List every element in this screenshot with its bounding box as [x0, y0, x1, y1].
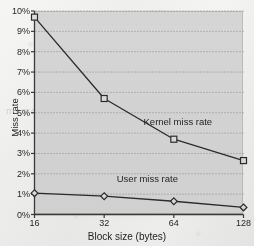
x-tick-label: 32 — [99, 218, 109, 228]
gridlines — [36, 11, 244, 194]
x-tick-label: 64 — [169, 218, 179, 228]
x-axis-title: Block size (bytes) — [0, 231, 254, 242]
x-tick-label: 16 — [29, 218, 39, 228]
axis-ticks — [31, 11, 244, 218]
series-label-user: User miss rate — [117, 173, 178, 184]
y-tick-label: 2% — [0, 169, 30, 179]
y-tick-label: 1% — [0, 189, 30, 199]
y-tick-label: 3% — [0, 148, 30, 158]
chart-canvas — [0, 0, 254, 246]
y-tick-label: 8% — [0, 47, 30, 57]
y-axis-title: Miss rate — [9, 88, 20, 148]
y-tick-label: 10% — [0, 6, 30, 16]
y-tick-label: 7% — [0, 67, 30, 77]
chart-figure: memory cache line rate 0%1%2%3%4%5%6%7%8… — [0, 0, 254, 246]
y-tick-label: 9% — [0, 26, 30, 36]
series-label-kernel: Kernel miss rate — [144, 116, 213, 127]
x-tick-label: 128 — [236, 218, 251, 228]
y-tick-label: 0% — [0, 210, 30, 220]
